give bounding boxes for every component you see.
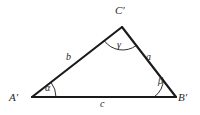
vertex-label-a: A′: [9, 92, 18, 103]
vertex-label-c: C′: [115, 5, 125, 16]
angle-label-gamma: γ: [117, 40, 121, 50]
vertex-label-b: B′: [178, 92, 187, 103]
triangle-figure: A′ B′ C′ b a c α β γ: [0, 0, 200, 115]
segment-a: [122, 27, 176, 97]
side-label-c: c: [100, 99, 104, 109]
angle-label-beta: β: [158, 76, 163, 86]
side-label-b: b: [66, 52, 71, 62]
angle-label-alpha: α: [45, 83, 50, 93]
side-label-a: a: [146, 52, 151, 62]
angle-arc-alpha: [51, 82, 56, 97]
